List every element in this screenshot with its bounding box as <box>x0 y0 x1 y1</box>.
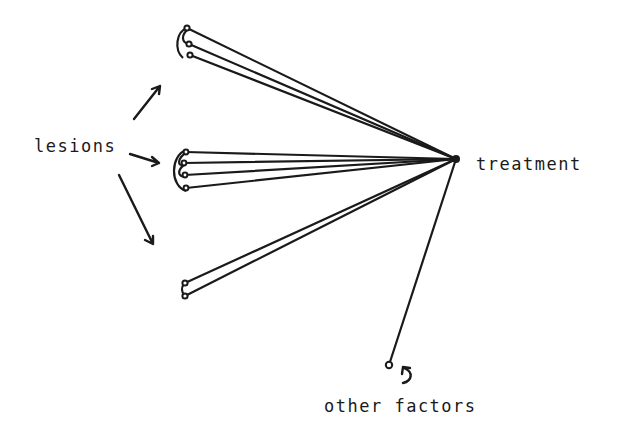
other-factors-node <box>386 362 392 368</box>
lesion-node <box>183 173 188 178</box>
lesion-node <box>182 293 187 298</box>
lesion-node <box>182 280 187 285</box>
treatment-hub-node <box>452 155 460 163</box>
edge-bot-2 <box>185 159 456 296</box>
lesion-node <box>184 150 189 155</box>
edge-mid-1 <box>186 152 456 159</box>
label-other-factors: other factors <box>324 396 477 416</box>
curved-arrow-icon <box>403 368 411 383</box>
arrow-right-icon <box>130 154 159 166</box>
label-treatment: treatment <box>476 154 582 174</box>
edge-top-3 <box>190 55 456 159</box>
lesion-group-middle <box>174 150 456 191</box>
lesion-node <box>187 52 192 57</box>
edge-bot-1 <box>185 159 456 283</box>
lesion-node <box>184 186 189 191</box>
lesions-treatment-diagram: lesions treatment other factors <box>0 0 627 433</box>
lesion-group-top <box>177 25 456 159</box>
lesion-node <box>182 161 187 166</box>
edge-top-2 <box>189 44 456 159</box>
edge-top-1 <box>187 28 456 159</box>
label-lesions: lesions <box>34 136 116 156</box>
arrow-down-icon <box>119 175 153 244</box>
other-factors-group <box>386 159 456 383</box>
lesion-arrows <box>119 86 160 244</box>
lesion-node <box>184 25 189 30</box>
lesion-group-bottom <box>182 159 456 299</box>
arrow-up-icon <box>134 86 160 119</box>
lesion-node <box>186 41 191 46</box>
edge-other-factors <box>389 159 456 365</box>
